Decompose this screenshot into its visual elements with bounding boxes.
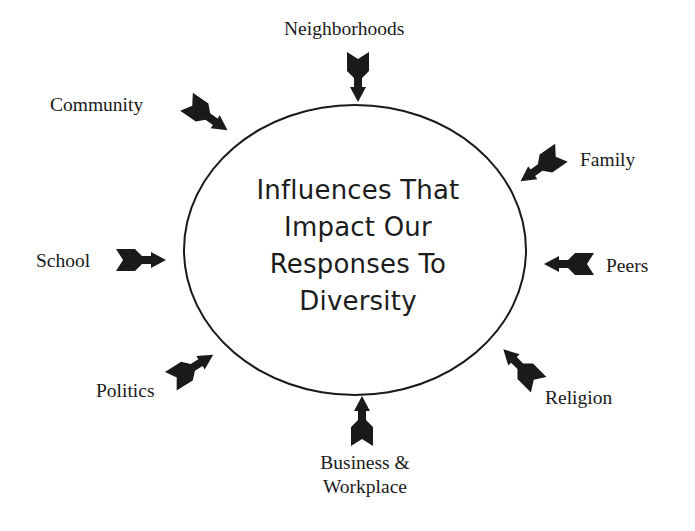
label-neighborhoods: Neighborhoods xyxy=(284,17,404,41)
arrow-peers-icon xyxy=(543,251,595,277)
arrow-business-workplace-icon xyxy=(349,395,375,447)
label-peers: Peers xyxy=(606,254,648,278)
arrow-community-icon xyxy=(178,90,236,141)
center-title-line-2: Impact Our xyxy=(213,209,503,246)
influences-diagram: Influences That Impact Our Responses To … xyxy=(0,0,695,531)
label-school: School xyxy=(36,249,90,273)
center-title: Influences That Impact Our Responses To … xyxy=(213,172,503,320)
label-politics: Politics xyxy=(96,379,155,403)
arrow-school-icon xyxy=(115,247,167,273)
center-title-line-3: Responses To xyxy=(213,246,503,283)
label-business-line-2: Workplace xyxy=(300,475,430,499)
center-title-line-4: Diversity xyxy=(213,283,503,320)
label-religion: Religion xyxy=(545,386,612,410)
arrow-neighborhoods-icon xyxy=(345,51,371,103)
arrow-religion-icon xyxy=(493,339,548,394)
arrow-politics-icon xyxy=(163,343,221,393)
center-title-line-1: Influences That xyxy=(213,172,503,209)
label-business-workplace: Business & Workplace xyxy=(300,451,430,499)
label-family: Family xyxy=(580,148,635,172)
arrow-family-icon xyxy=(512,141,570,192)
label-community: Community xyxy=(50,93,143,117)
label-business-line-1: Business & xyxy=(300,451,430,475)
